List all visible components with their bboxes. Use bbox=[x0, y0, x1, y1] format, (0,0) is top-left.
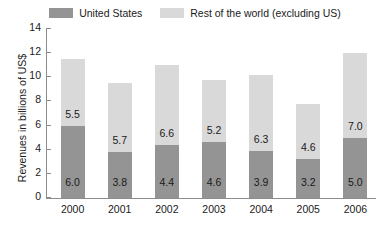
y-axis-tick: 10 bbox=[46, 76, 51, 77]
bar-group[interactable]: 5.56.0 bbox=[61, 59, 85, 198]
bar-value-label: 3.9 bbox=[249, 176, 273, 188]
bar-segment-rest-of-world[interactable]: 4.6 bbox=[296, 104, 320, 160]
bar-value-label: 5.2 bbox=[202, 124, 226, 136]
bar-segment-rest-of-world[interactable]: 7.0 bbox=[343, 53, 367, 138]
y-axis-tick-mark bbox=[46, 125, 51, 126]
legend-swatch-rest-of-world bbox=[160, 8, 184, 18]
y-axis-tick: 12 bbox=[46, 52, 51, 53]
bar-segment-rest-of-world[interactable]: 5.2 bbox=[202, 80, 226, 143]
bar-value-label: 3.2 bbox=[296, 176, 320, 188]
bar-value-label: 5.7 bbox=[108, 134, 132, 146]
bar-group[interactable]: 4.63.2 bbox=[296, 104, 320, 198]
bar-group[interactable]: 5.73.8 bbox=[108, 83, 132, 198]
y-axis-tick-label: 8 bbox=[35, 93, 41, 105]
bar-value-label: 3.8 bbox=[108, 176, 132, 188]
legend-swatch-united-states bbox=[49, 8, 73, 18]
bar-value-label: 4.4 bbox=[155, 176, 179, 188]
bar-segment-united-states[interactable]: 3.9 bbox=[249, 151, 273, 198]
x-axis-tick-label: 2001 bbox=[96, 203, 144, 215]
bar-chart: United States Rest of the world (excludi… bbox=[0, 0, 390, 232]
y-axis-title: Revenues in billions of US$ bbox=[16, 28, 28, 208]
bar-value-label: 4.6 bbox=[202, 176, 226, 188]
bar-segment-united-states[interactable]: 5.0 bbox=[343, 138, 367, 198]
y-axis-tick-mark bbox=[46, 100, 51, 101]
bar-segment-united-states[interactable]: 3.8 bbox=[108, 152, 132, 198]
bar-segment-rest-of-world[interactable]: 5.7 bbox=[108, 83, 132, 152]
y-axis-tick-label: 12 bbox=[29, 45, 41, 57]
x-axis-tick-label: 2006 bbox=[331, 203, 379, 215]
bar-value-label: 5.0 bbox=[343, 176, 367, 188]
bar-value-label: 6.6 bbox=[155, 127, 179, 139]
y-axis-tick: 14 bbox=[46, 28, 51, 29]
x-axis-tick-label: 2003 bbox=[190, 203, 238, 215]
bar-value-label: 4.6 bbox=[296, 141, 320, 153]
bar-value-label: 6.0 bbox=[61, 176, 85, 188]
y-axis-tick-mark bbox=[46, 52, 51, 53]
bar-segment-rest-of-world[interactable]: 5.5 bbox=[61, 59, 85, 125]
y-axis-tick: 4 bbox=[46, 149, 51, 150]
y-axis-tick-label: 4 bbox=[35, 142, 41, 154]
legend-label-rest-of-world: Rest of the world (excluding US) bbox=[190, 7, 341, 19]
y-axis-tick-label: 6 bbox=[35, 118, 41, 130]
bar-group[interactable]: 6.64.4 bbox=[155, 65, 179, 198]
y-axis-tick-mark bbox=[46, 173, 51, 174]
y-axis-tick: 2 bbox=[46, 173, 51, 174]
bar-segment-rest-of-world[interactable]: 6.3 bbox=[249, 75, 273, 151]
y-axis-tick-mark bbox=[46, 149, 51, 150]
x-axis-line bbox=[46, 198, 376, 199]
bar-segment-united-states[interactable]: 6.0 bbox=[61, 126, 85, 198]
x-axis-tick-label: 2004 bbox=[237, 203, 285, 215]
y-axis-tick-mark bbox=[46, 76, 51, 77]
y-axis-tick: 8 bbox=[46, 100, 51, 101]
bar-value-label: 5.5 bbox=[61, 108, 85, 120]
y-axis-tick-label: 0 bbox=[35, 190, 41, 202]
bar-group[interactable]: 6.33.9 bbox=[249, 75, 273, 198]
bar-group[interactable]: 5.24.6 bbox=[202, 80, 226, 198]
legend-item-united-states: United States bbox=[49, 7, 142, 19]
x-axis-tick-label: 2002 bbox=[143, 203, 191, 215]
chart-legend: United States Rest of the world (excludi… bbox=[0, 4, 390, 22]
bar-segment-united-states[interactable]: 3.2 bbox=[296, 159, 320, 198]
bar-segment-rest-of-world[interactable]: 6.6 bbox=[155, 65, 179, 145]
y-axis-tick-label: 10 bbox=[29, 69, 41, 81]
x-axis-tick-label: 2000 bbox=[49, 203, 97, 215]
plot-area: 02468101214 5.56.05.73.86.64.45.24.66.33… bbox=[46, 29, 376, 199]
y-axis-tick-mark bbox=[46, 28, 51, 29]
legend-item-rest-of-world: Rest of the world (excluding US) bbox=[160, 7, 341, 19]
bar-value-label: 7.0 bbox=[343, 120, 367, 132]
bar-value-label: 6.3 bbox=[249, 133, 273, 145]
bar-segment-united-states[interactable]: 4.6 bbox=[202, 142, 226, 198]
bar-segment-united-states[interactable]: 4.4 bbox=[155, 145, 179, 198]
y-axis-tick: 6 bbox=[46, 125, 51, 126]
y-axis-tick-label: 14 bbox=[29, 21, 41, 33]
y-axis-tick-mark bbox=[46, 197, 51, 198]
legend-label-united-states: United States bbox=[79, 7, 142, 19]
bar-group[interactable]: 7.05.0 bbox=[343, 53, 367, 198]
x-axis-tick-label: 2005 bbox=[284, 203, 332, 215]
y-axis-tick: 0 bbox=[46, 197, 51, 198]
y-axis-tick-label: 2 bbox=[35, 166, 41, 178]
